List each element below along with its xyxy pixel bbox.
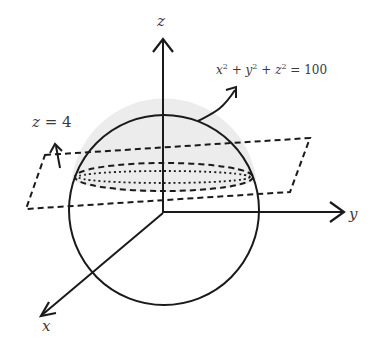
plane-equation-label: z = 4 (31, 113, 72, 131)
x-axis (42, 213, 163, 315)
z-axis-label: z (156, 12, 165, 30)
sphere-equation-label: x2 + y2 + z2 = 100 (216, 62, 327, 77)
svg-text:z = 4: z = 4 (31, 113, 72, 131)
svg-text:x2 + y2 + z2 = 100: x2 + y2 + z2 = 100 (216, 62, 327, 77)
y-axis-label: y (348, 205, 358, 223)
x-axis-label: x (42, 317, 51, 335)
sphere-plane-diagram: z y x x2 + y2 + z2 = 100 z = 4 (0, 0, 375, 357)
